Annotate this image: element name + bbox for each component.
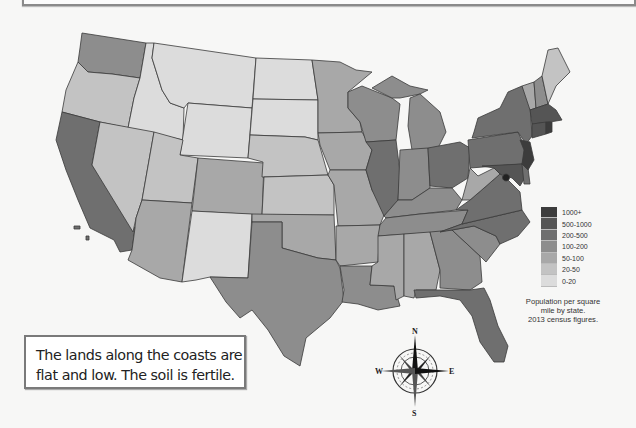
caption-line: 2013 census figures. <box>510 315 616 324</box>
legend-item: 1000+ <box>541 207 592 218</box>
state-new-mexico <box>182 211 252 282</box>
legend-swatch <box>541 275 557 286</box>
state-arizona <box>128 200 192 282</box>
legend-caption: Population per square mile by state. 201… <box>510 297 616 324</box>
legend-swatch <box>541 253 557 264</box>
legend-item: 200-500 <box>541 230 592 241</box>
compass-rose-icon: N S W E <box>375 325 455 417</box>
state-michigan <box>408 94 446 150</box>
state-iowa <box>318 132 372 170</box>
state-dc <box>503 174 510 181</box>
legend-item: 100-200 <box>541 241 592 252</box>
compass-south-label: S <box>412 409 417 417</box>
state-south-dakota <box>250 99 318 140</box>
legend-item: 500-1000 <box>541 218 592 229</box>
state-north-dakota <box>253 58 318 100</box>
compass-east-label: E <box>449 367 454 376</box>
legend-label: 50-100 <box>562 253 584 264</box>
legend-item: 20-50 <box>541 264 592 275</box>
state-kansas <box>262 175 334 215</box>
legend-label: 500-1000 <box>562 219 592 230</box>
compass-west-label: W <box>375 367 383 376</box>
state-ohio <box>428 142 470 188</box>
channel-islands <box>74 226 89 240</box>
legend-swatch <box>541 207 557 218</box>
legend-label: 0-20 <box>562 276 576 287</box>
note-box: The lands along the coasts are flat and … <box>24 335 246 389</box>
state-connecticut <box>532 122 546 138</box>
legend-swatch <box>541 241 557 252</box>
note-text: The lands along the coasts are flat and … <box>36 345 244 385</box>
state-washington <box>78 33 146 78</box>
legend-swatch <box>541 218 557 229</box>
legend-label: 100-200 <box>562 241 588 252</box>
state-montana <box>152 43 256 108</box>
legend-item: 50-100 <box>541 253 592 264</box>
state-wyoming <box>180 103 252 158</box>
legend-label: 20-50 <box>562 264 580 275</box>
legend: 1000+ 500-1000 200-500 100-200 50-100 20… <box>541 207 592 287</box>
legend-swatch <box>541 264 557 275</box>
legend-item: 0-20 <box>541 275 592 286</box>
caption-line: mile by state. <box>510 306 616 315</box>
caption-line: Population per square <box>510 297 616 306</box>
state-arkansas <box>336 225 380 266</box>
state-colorado <box>192 158 264 215</box>
compass-north-label: N <box>412 327 418 336</box>
legend-label: 1000+ <box>562 207 582 218</box>
state-rhode-island <box>546 122 552 134</box>
legend-swatch <box>541 230 557 241</box>
state-maine <box>542 48 570 104</box>
legend-label: 200-500 <box>562 230 588 241</box>
